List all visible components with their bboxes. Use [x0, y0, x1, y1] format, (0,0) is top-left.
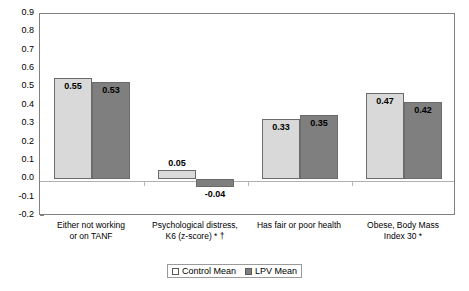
category-tick: [248, 182, 249, 186]
bar-control-1: [158, 170, 196, 179]
bar-value-label: 0.35: [300, 118, 338, 128]
bar-chart: 0.90.80.70.60.50.40.30.20.10.0-0.1-0.2 0…: [0, 0, 469, 291]
category-label-line: Has fair or poor health: [247, 220, 351, 231]
bar-lpv-0: [92, 82, 130, 179]
x-axis-category-labels: Either not workingor on TANFPsychologica…: [39, 220, 455, 256]
bar-control-0: [54, 78, 92, 179]
legend-label: Control Mean: [182, 266, 236, 276]
bar-value-label: 0.53: [92, 85, 130, 95]
legend-swatch-icon: [245, 268, 252, 275]
category-label-3: Obese, Body MassIndex 30 *: [351, 220, 455, 242]
bar-value-label: 0.33: [262, 122, 300, 132]
category-label-1: Psychological distress,K6 (z-score) * †: [143, 220, 247, 242]
bars-layer: 0.550.050.330.470.53-0.040.350.42: [40, 14, 454, 214]
bar-value-label: 0.55: [54, 81, 92, 91]
category-label-line: Obese, Body Mass: [351, 220, 455, 231]
bar-value-label: -0.04: [196, 189, 234, 199]
y-tick-mark: [40, 215, 44, 216]
category-label-line: or on TANF: [39, 231, 143, 242]
legend-entry-control[interactable]: Control Mean: [172, 266, 236, 276]
category-label-2: Has fair or poor health: [247, 220, 351, 231]
y-tick-label: 0.0: [21, 173, 34, 182]
category-label-0: Either not workingor on TANF: [39, 220, 143, 242]
y-tick-label: -0.2: [18, 210, 34, 219]
y-tick-label: 0.3: [21, 118, 34, 127]
y-tick-label: 0.4: [21, 100, 34, 109]
category-label-line: K6 (z-score) * †: [143, 231, 247, 242]
plot-area: 0.550.050.330.470.53-0.040.350.42: [39, 13, 455, 215]
y-axis: 0.90.80.70.60.50.40.30.20.10.0-0.1-0.2: [6, 13, 34, 215]
category-label-line: Index 30 *: [351, 231, 455, 242]
bar-value-label: 0.05: [158, 158, 196, 168]
y-tick-label: 0.8: [21, 26, 34, 35]
y-tick-label: 0.1: [21, 155, 34, 164]
legend-swatch-icon: [172, 268, 179, 275]
legend-entry-lpv[interactable]: LPV Mean: [245, 266, 297, 276]
y-tick-label: 0.7: [21, 45, 34, 54]
bar-value-label: 0.47: [366, 96, 404, 106]
legend: Control MeanLPV Mean: [0, 264, 469, 278]
category-tick: [352, 182, 353, 186]
bar-lpv-1: [196, 179, 234, 186]
legend-box: Control MeanLPV Mean: [167, 264, 302, 278]
y-tick-label: 0.2: [21, 137, 34, 146]
legend-label: LPV Mean: [255, 266, 297, 276]
y-tick-label: -0.1: [18, 192, 34, 201]
y-tick-label: 0.5: [21, 81, 34, 90]
category-tick: [144, 182, 145, 186]
bar-value-label: 0.42: [404, 105, 442, 115]
category-label-line: Psychological distress,: [143, 220, 247, 231]
category-label-line: Either not working: [39, 220, 143, 231]
y-tick-label: 0.9: [21, 8, 34, 17]
y-tick-label: 0.6: [21, 63, 34, 72]
